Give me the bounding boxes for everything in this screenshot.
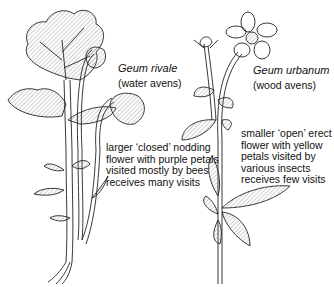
geum-urbanum-species-label: Geum urbanum [253, 65, 329, 77]
description-line: larger ‘closed’ nodding [106, 142, 219, 154]
description-line: receives few visits [241, 174, 332, 186]
geum-urbanum-description: smaller ‘open’ erect flower with yellow … [241, 128, 332, 186]
geum-urbanum-common-name: (wood avens) [253, 80, 316, 92]
geum-rivale-description: larger ‘closed’ nodding flower with purp… [106, 142, 219, 188]
description-line: petals visited by [241, 151, 332, 163]
description-line: receives many visits [106, 177, 219, 189]
geum-rivale-species-label: Geum rivale [118, 63, 177, 75]
geum-rivale-common-name: (water avens) [118, 78, 182, 90]
description-line: visited mostly by bees [106, 165, 219, 177]
description-line: smaller ‘open’ erect [241, 128, 332, 140]
